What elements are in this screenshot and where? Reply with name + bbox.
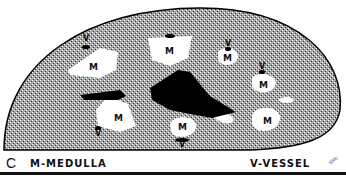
vessel-mark [82, 45, 90, 49]
medulla-label: M [223, 53, 232, 63]
medulla-label: M [114, 113, 123, 123]
medulla-label: M [165, 46, 174, 56]
medulla-label: M [178, 122, 187, 132]
vessel-label: V [95, 129, 101, 138]
vessel-label: V [225, 39, 231, 48]
vessel-label: V [83, 34, 89, 43]
vessel-label: V [259, 62, 265, 71]
vessel-label: V [179, 140, 185, 149]
medulla-label: M [263, 116, 272, 126]
vessel-mark [165, 34, 175, 38]
medulla-label: M [259, 80, 268, 90]
medulla-label: M [89, 62, 98, 72]
panel-label: C [6, 155, 16, 171]
bottom-rule [0, 172, 346, 175]
cross-section-diagram [0, 0, 346, 179]
legend-medulla: M-MEDULLA [30, 158, 107, 169]
legend-vessel: V-VESSEL [250, 158, 310, 169]
